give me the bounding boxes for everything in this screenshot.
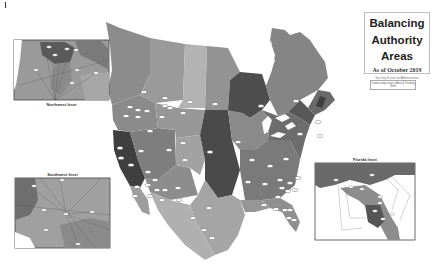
- florida-inset: [315, 163, 415, 240]
- title-line-2: Authority: [365, 35, 429, 47]
- southwest-inset: [15, 178, 110, 248]
- map-title-box: Balancing Authority Areas As of October …: [364, 12, 430, 74]
- title-line-3: Areas: [365, 51, 429, 63]
- title-date: As of October 2019: [365, 67, 429, 73]
- region-florida: [262, 198, 300, 232]
- title-line-1: Balancing: [365, 18, 429, 30]
- region-baja: [130, 186, 150, 215]
- florida-inset-caption: Florida Inset: [315, 157, 415, 162]
- title-subtitle: See key & note for Abbreviations: [365, 76, 429, 80]
- northwest-inset-caption: Northwest Inset: [14, 102, 109, 107]
- contact-note: Contact map source: Area & Tracking Staf…: [370, 80, 416, 90]
- northwest-inset: [14, 40, 109, 100]
- southwest-inset-caption: Southwest Inset: [15, 172, 110, 177]
